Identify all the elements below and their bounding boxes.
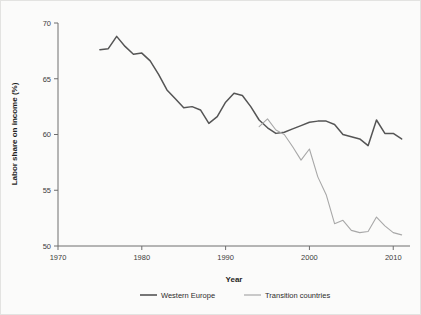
legend-label-western-europe: Western Europe — [161, 291, 215, 300]
y-tick-label: 50 — [43, 242, 51, 251]
y-tick-label: 60 — [43, 130, 51, 139]
series-line-transition-countries — [259, 119, 401, 235]
x-axis-ticks: 19701980199020002010 — [50, 246, 402, 262]
series-line-western-europe — [100, 36, 402, 145]
y-tick-label: 70 — [43, 19, 51, 28]
x-tick-label: 1990 — [217, 253, 234, 262]
x-tick-label: 1970 — [50, 253, 67, 262]
chart-legend: Western EuropeTransition countries — [140, 291, 330, 300]
chart-figure: 5055606570 19701980199020002010 Year Lab… — [0, 0, 421, 315]
x-tick-label: 2010 — [385, 253, 402, 262]
legend-label-transition-countries: Transition countries — [265, 291, 330, 300]
data-series-group — [100, 36, 402, 234]
y-tick-label: 55 — [43, 186, 51, 195]
x-tick-label: 2000 — [301, 253, 318, 262]
y-axis-title: Labor share on income (%) — [10, 82, 19, 185]
y-axis-ticks: 5055606570 — [43, 19, 58, 251]
x-axis-title: Year — [226, 275, 243, 284]
y-tick-label: 65 — [43, 75, 51, 84]
x-tick-label: 1980 — [133, 253, 150, 262]
chart-plot-area: 5055606570 19701980199020002010 Year Lab… — [1, 1, 421, 315]
line-chart-svg: 5055606570 19701980199020002010 Year Lab… — [1, 1, 421, 315]
